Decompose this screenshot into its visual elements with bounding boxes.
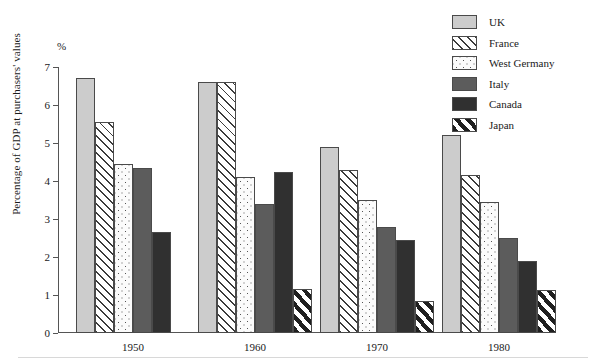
bar-canada-1970 bbox=[396, 240, 415, 333]
y-tick-mark bbox=[53, 333, 58, 334]
bar-group-1960 bbox=[198, 67, 312, 333]
bar-chart: Percentage of GDP at purchasers' values … bbox=[0, 0, 599, 363]
legend-item-canada: Canada bbox=[452, 94, 592, 115]
x-tick-label-1960: 1960 bbox=[215, 341, 295, 353]
bar-west-germany-1970 bbox=[358, 200, 377, 333]
y-tick-label: 2 bbox=[45, 252, 51, 263]
y-tick-label: 6 bbox=[45, 100, 51, 111]
y-tick-label: 3 bbox=[45, 214, 51, 225]
legend: UKFranceWest GermanyItalyCanadaJapan bbox=[452, 12, 592, 135]
y-tick-0: 0 bbox=[58, 333, 63, 334]
legend-item-japan: Japan bbox=[452, 115, 592, 136]
bar-group-1970 bbox=[320, 67, 434, 333]
bar-group-1950 bbox=[76, 67, 190, 333]
bar-japan-1970 bbox=[415, 301, 434, 333]
legend-swatch-icon bbox=[452, 118, 477, 132]
legend-swatch-icon bbox=[452, 15, 477, 29]
y-axis-unit-label: % bbox=[57, 40, 66, 52]
x-tick-label-1950: 1950 bbox=[93, 341, 173, 353]
y-tick-label: 0 bbox=[45, 328, 51, 339]
bar-italy-1980 bbox=[499, 238, 518, 333]
bar-italy-1960 bbox=[255, 204, 274, 333]
bar-west-germany-1980 bbox=[480, 202, 499, 333]
legend-swatch-icon bbox=[452, 97, 477, 111]
legend-label: UK bbox=[489, 16, 505, 28]
y-axis-title: Percentage of GDP at purchasers' values bbox=[10, 14, 22, 234]
legend-label: Japan bbox=[489, 119, 514, 131]
bar-japan-1980 bbox=[537, 290, 556, 333]
legend-swatch-icon bbox=[452, 77, 477, 91]
legend-swatch-icon bbox=[452, 36, 477, 50]
bar-italy-1970 bbox=[377, 227, 396, 333]
bar-italy-1950 bbox=[133, 168, 152, 333]
bar-japan-1960 bbox=[293, 289, 312, 333]
y-tick-label: 4 bbox=[45, 176, 51, 187]
footer-rule bbox=[18, 357, 588, 358]
x-tick-label-1970: 1970 bbox=[337, 341, 417, 353]
legend-item-west-germany: West Germany bbox=[452, 53, 592, 74]
bar-uk-1970 bbox=[320, 147, 339, 333]
bar-uk-1980 bbox=[442, 135, 461, 333]
legend-swatch-icon bbox=[452, 56, 477, 70]
legend-label: Canada bbox=[489, 98, 522, 110]
bar-uk-1950 bbox=[76, 78, 95, 333]
y-tick-label: 7 bbox=[45, 62, 51, 73]
bar-france-1970 bbox=[339, 170, 358, 333]
x-tick-label-1980: 1980 bbox=[459, 341, 539, 353]
y-tick-label: 1 bbox=[45, 290, 51, 301]
legend-label: Italy bbox=[489, 78, 509, 90]
bar-west-germany-1950 bbox=[114, 164, 133, 333]
bar-uk-1960 bbox=[198, 82, 217, 333]
legend-item-france: France bbox=[452, 33, 592, 54]
legend-label: West Germany bbox=[489, 57, 554, 69]
legend-item-uk: UK bbox=[452, 12, 592, 33]
bar-france-1950 bbox=[95, 122, 114, 333]
bar-canada-1950 bbox=[152, 232, 171, 333]
bar-france-1980 bbox=[461, 175, 480, 333]
bar-canada-1980 bbox=[518, 261, 537, 333]
y-tick-label: 5 bbox=[45, 138, 51, 149]
legend-label: France bbox=[489, 37, 519, 49]
legend-item-italy: Italy bbox=[452, 74, 592, 95]
bar-france-1960 bbox=[217, 82, 236, 333]
bar-canada-1960 bbox=[274, 172, 293, 334]
bar-west-germany-1960 bbox=[236, 177, 255, 333]
